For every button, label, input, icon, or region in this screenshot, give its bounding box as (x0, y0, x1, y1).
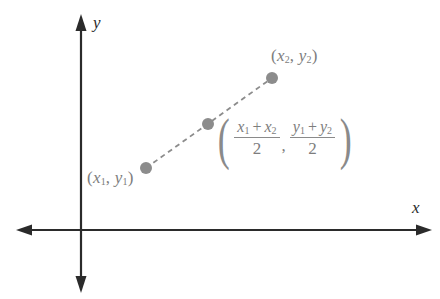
formula-x-plus: + (249, 118, 264, 135)
formula-x-numerator: x1+x2 (234, 118, 279, 137)
point-marker-p1 (140, 162, 152, 174)
formula-y-plus: + (305, 118, 320, 135)
midpoint-formula-label: ( x1+x2 2 , y1+y2 2 ) (214, 118, 355, 160)
p2-x-var: x (277, 46, 285, 65)
formula-y-fraction: y1+y2 2 (290, 118, 335, 159)
formula-close-paren: ) (340, 118, 352, 160)
x-axis-label: x (412, 198, 420, 218)
p1-comma: , (106, 168, 115, 187)
formula-y2-subscript: 2 (327, 125, 332, 136)
formula-x-fraction: x1+x2 2 (234, 118, 279, 159)
midpoint-figure: y x (x1, y1) (x2, y2) ( x1+x2 2 , y1+y2 … (0, 0, 440, 299)
point-label-p1: (x1, y1) (87, 168, 134, 188)
p1-x-var: x (93, 168, 101, 187)
formula-comma: , (281, 136, 289, 160)
formula-y2-var: y (320, 118, 327, 135)
point-marker-midpoint (202, 118, 214, 130)
formula-x2-var: x (264, 118, 271, 135)
formula-x2-subscript: 2 (272, 125, 277, 136)
p2-comma: , (290, 46, 299, 65)
formula-y-numerator: y1+y2 (290, 118, 335, 137)
p1-close-paren: ) (128, 168, 134, 187)
point-marker-p2 (266, 72, 278, 84)
formula-y-denominator: 2 (305, 138, 320, 159)
point-label-p2: (x2, y2) (271, 46, 318, 66)
formula-open-paren: ( (218, 118, 230, 160)
formula-x-denominator: 2 (250, 138, 265, 159)
formula-y1-var: y (293, 118, 300, 135)
y-axis-label: y (93, 13, 101, 33)
p2-close-paren: ) (312, 46, 318, 65)
